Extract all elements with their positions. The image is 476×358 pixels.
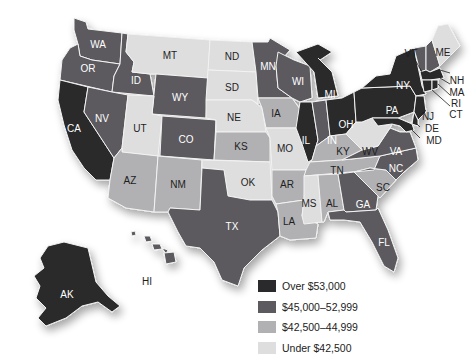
state-label-ga: GA [356, 199, 371, 210]
state-label-md: MD [426, 135, 442, 146]
state-label-sd: SD [225, 82, 239, 93]
state-label-nj: NJ [422, 111, 434, 122]
legend-swatch [258, 280, 276, 292]
state-ri[interactable] [432, 80, 438, 90]
state-label-mo: MO [277, 143, 293, 154]
state-label-la: LA [283, 216, 296, 227]
state-label-az: AZ [124, 175, 137, 186]
legend-label: $45,000–52,999 [282, 301, 358, 313]
state-label-wa: WA [90, 39, 106, 50]
state-label-va: VA [390, 146, 403, 157]
state-label-ny: NY [396, 80, 410, 91]
state-label-co: CO [179, 134, 194, 145]
state-label-ar: AR [280, 179, 294, 190]
state-label-ok: OK [241, 177, 256, 188]
legend-item-over-53000: Over $53,000 [258, 277, 358, 295]
legend-item-45000-52999: $45,000–52,999 [258, 298, 358, 316]
state-label-nc: NC [389, 163, 403, 174]
state-label-vt: VT [405, 48, 418, 59]
state-label-wv: WV [362, 146, 378, 157]
state-label-tx: TX [226, 221, 239, 232]
state-label-mn: MN [260, 61, 276, 72]
state-label-nh: NH [450, 75, 464, 86]
state-label-nv: NV [95, 113, 109, 124]
state-label-ms: MS [302, 198, 317, 209]
state-label-id: ID [131, 75, 141, 86]
state-label-ca: CA [67, 123, 81, 134]
state-label-il: IL [302, 135, 311, 146]
state-label-de: DE [425, 123, 439, 134]
state-label-ct: CT [449, 109, 462, 120]
legend-swatch [258, 321, 276, 333]
state-label-ne: NE [227, 112, 241, 123]
legend-label: Over $53,000 [282, 280, 346, 292]
state-label-sc: SC [376, 182, 390, 193]
legend-label: Under $42,500 [282, 342, 351, 354]
state-label-fl: FL [378, 237, 390, 248]
state-label-or: OR [81, 63, 96, 74]
state-label-pa: PA [386, 105, 399, 116]
state-label-wi: WI [292, 76, 304, 87]
state-label-wy: WY [172, 92, 188, 103]
legend: Over $53,000 $45,000–52,999 $42,500–44,9… [258, 277, 358, 358]
legend-swatch [258, 301, 276, 313]
state-label-mt: MT [163, 50, 177, 61]
state-ak[interactable] [34, 242, 120, 326]
state-label-in: IN [327, 135, 337, 146]
state-hi[interactable] [131, 231, 176, 264]
state-label-tn: TN [330, 165, 343, 176]
state-label-nd: ND [225, 51, 239, 62]
state-label-ia: IA [271, 108, 281, 119]
state-label-mi: MI [324, 89, 335, 100]
state-label-nm: NM [170, 179, 186, 190]
state-label-ky: KY [336, 146, 350, 157]
state-label-ak: AK [60, 289, 74, 300]
legend-swatch [258, 342, 276, 354]
state-label-ri: RI [451, 98, 461, 109]
state-ct[interactable] [422, 80, 432, 92]
state-label-ks: KS [234, 141, 248, 152]
state-label-hi: HI [142, 276, 152, 287]
state-label-me: ME [436, 47, 451, 58]
state-label-al: AL [326, 198, 339, 209]
state-label-ut: UT [133, 123, 146, 134]
legend-label: $42,500–44,999 [282, 321, 358, 333]
state-label-oh: OH [339, 119, 354, 130]
legend-item-under-42500: Under $42,500 [258, 339, 358, 357]
state-label-ma: MA [450, 87, 465, 98]
legend-item-42500-44999: $42,500–44,999 [258, 318, 358, 336]
